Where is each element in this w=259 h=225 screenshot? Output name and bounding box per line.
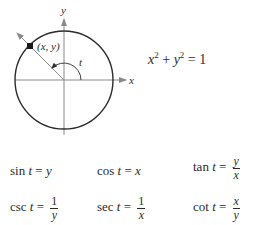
eq-plus: + bbox=[159, 52, 174, 67]
func-var: t bbox=[212, 159, 216, 174]
numerator: y bbox=[233, 155, 240, 169]
numerator: x bbox=[233, 195, 240, 209]
func-name: csc bbox=[10, 199, 27, 214]
rhs: x bbox=[135, 163, 141, 178]
x-axis-label: x bbox=[128, 74, 134, 86]
identity-cot: cot t = xy bbox=[193, 195, 240, 222]
identity-cos: cos t = x bbox=[97, 163, 141, 179]
identity-csc: csc t = 1y bbox=[10, 195, 58, 222]
fraction: xy bbox=[233, 195, 240, 222]
unit-circle-diagram: y x (x, y) t bbox=[0, 0, 259, 140]
numerator: 1 bbox=[50, 195, 58, 209]
point-label: (x, y) bbox=[37, 40, 60, 53]
numerator: 1 bbox=[137, 195, 145, 209]
equals-sign: = bbox=[37, 199, 44, 214]
eq-equals-one: = 1 bbox=[184, 52, 206, 67]
func-name: sec bbox=[97, 199, 114, 214]
y-axis-label: y bbox=[60, 4, 66, 16]
identity-sec: sec t = 1x bbox=[97, 195, 145, 222]
func-var: t bbox=[118, 163, 122, 178]
angle-label: t bbox=[79, 56, 83, 68]
rhs: y bbox=[46, 163, 52, 178]
equals-sign: = bbox=[124, 163, 131, 178]
func-name: cot bbox=[193, 199, 209, 214]
identity-sin: sin t = y bbox=[10, 163, 52, 179]
equals-sign: = bbox=[219, 199, 226, 214]
identity-tan: tan t = yx bbox=[193, 155, 240, 182]
func-var: t bbox=[28, 163, 32, 178]
equals-sign: = bbox=[219, 159, 226, 174]
func-name: tan bbox=[193, 159, 209, 174]
unit-circle-equation: x2 + y2 = 1 bbox=[148, 50, 206, 68]
func-var: t bbox=[30, 199, 34, 214]
fraction: yx bbox=[233, 155, 240, 182]
func-name: sin bbox=[10, 163, 25, 178]
equals-sign: = bbox=[124, 199, 131, 214]
func-name: cos bbox=[97, 163, 114, 178]
func-var: t bbox=[117, 199, 121, 214]
denominator: y bbox=[51, 209, 58, 222]
equals-sign: = bbox=[35, 163, 42, 178]
fraction: 1y bbox=[50, 195, 58, 222]
denominator: y bbox=[233, 209, 240, 222]
denominator: x bbox=[233, 169, 240, 182]
denominator: x bbox=[138, 209, 145, 222]
angle-arc bbox=[52, 63, 81, 80]
func-var: t bbox=[212, 199, 216, 214]
fraction: 1x bbox=[137, 195, 145, 222]
point-marker bbox=[27, 43, 33, 49]
